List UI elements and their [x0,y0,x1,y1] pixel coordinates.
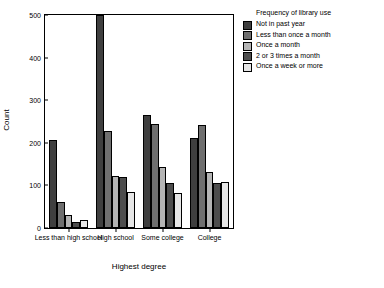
bar-chart: Count 0100200300400500Less than high sch… [0,0,384,288]
y-axis-tick-mark [45,185,48,186]
legend-item: Less than once a month [243,31,381,41]
legend-title: Frequency of library use [256,8,381,17]
bar [213,183,221,228]
bar [104,131,112,228]
x-axis-tick-mark [68,228,69,232]
bar [166,183,174,228]
bar [49,140,57,228]
x-axis-title: Highest degree [112,262,166,271]
bar [65,215,73,228]
bar [198,125,206,228]
plot-area: 0100200300400500Less than high schoolHig… [45,15,233,228]
y-axis-tick-label: 100 [29,182,45,189]
legend-swatch-icon [243,42,252,51]
x-axis-tick-label: College [175,234,245,243]
x-axis-tick-mark [115,228,116,232]
y-axis-tick-mark [45,142,48,143]
legend-item-label: 2 or 3 times a month [256,52,320,61]
legend-item: 2 or 3 times a month [243,52,381,62]
x-axis-tick-mark [162,228,163,232]
y-axis-tick-label: 200 [29,139,45,146]
bar [151,124,159,228]
x-axis-tick-mark [209,228,210,232]
y-axis-tick-label: 400 [29,54,45,61]
legend-item-label: Once a month [256,41,300,50]
legend-entries: Not in past yearLess than once a monthOn… [243,20,381,72]
bar [57,202,65,228]
legend-swatch-icon [243,31,252,40]
y-axis-tick-mark [45,15,48,16]
legend-swatch-icon [243,21,252,30]
y-axis-tick-mark [45,57,48,58]
bar [221,182,229,228]
bar [112,176,120,228]
bar [206,172,214,228]
legend-item-label: Less than once a month [256,31,331,40]
bar [159,167,167,228]
legend-item-label: Not in past year [256,20,305,29]
legend-item: Not in past year [243,20,381,30]
legend-swatch-icon [243,52,252,61]
y-axis-tick-label: 500 [29,12,45,19]
legend-item: Once a month [243,41,381,51]
y-axis-tick-label: 300 [29,97,45,104]
bar [174,193,182,228]
bar [143,115,151,228]
bar [96,15,104,228]
y-axis-tick-mark [45,228,48,229]
bar [72,222,80,228]
legend-item: Once a week or more [243,62,381,72]
legend-item-label: Once a week or more [256,62,323,71]
legend-swatch-icon [243,63,252,72]
legend: Frequency of library use Not in past yea… [243,8,381,73]
bar [119,177,127,228]
bar [190,138,198,228]
bar [80,220,88,228]
bar [127,192,135,228]
y-axis-tick-label: 0 [37,225,45,232]
y-axis-tick-mark [45,100,48,101]
y-axis-title: Count [2,109,11,130]
